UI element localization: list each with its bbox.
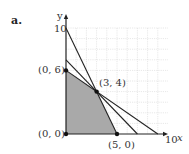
vertex-label-3-4: (3, 4)	[99, 78, 126, 88]
y-tick-10: 10	[54, 24, 67, 34]
y-axis-arrow-icon	[64, 14, 68, 19]
x-tick-10: 10	[165, 135, 178, 145]
feasible-region-plot	[0, 0, 189, 154]
y-axis-label: y	[57, 11, 63, 21]
vertex-label-5-0: (5, 0)	[108, 140, 135, 150]
x-axis-label: x	[177, 133, 183, 143]
vertex-label-0-0: (0, 0)	[38, 129, 65, 139]
vertex-label-0-6: (0, 6)	[38, 65, 65, 75]
